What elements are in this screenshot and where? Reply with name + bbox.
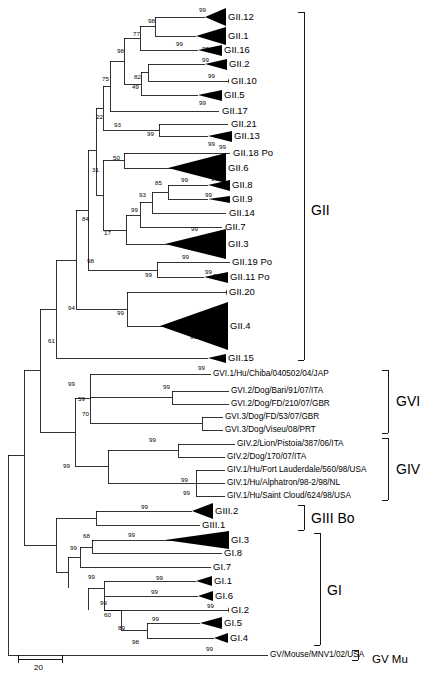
bootstrap-value: 99 (199, 7, 206, 13)
bootstrap-value: 99 (191, 226, 198, 232)
bootstrap-value: 99 (213, 273, 220, 279)
bootstrap-value: 49 (132, 84, 139, 90)
taxon-label-GI.3: GI.3 (231, 535, 249, 545)
scale-bar-label: 20 (34, 664, 43, 672)
taxon-label-GII.9: GII.9 (232, 194, 253, 204)
taxon-label-GII.8: GII.8 (232, 180, 253, 190)
taxon-label-GII.2: GII.2 (229, 59, 250, 69)
taxon-label-GI.7: GI.7 (213, 562, 231, 572)
taxon-label-GV.MNV1: GV/Mouse/MNV1/02/USA (270, 650, 364, 660)
bootstrap-value: 99 (190, 334, 197, 340)
phylogenetic-tree-figure: GII.12GII.1GII.16GII.2GII.10GII.5GII.17G… (0, 0, 433, 688)
bootstrap-value: 99 (145, 272, 152, 278)
bootstrap-value: 99 (208, 141, 215, 147)
taxon-label-GI.4: GI.4 (230, 633, 248, 643)
taxon-label-GII.13: GII.13 (234, 131, 260, 141)
taxon-label-GII.19: GII.19 Po (232, 257, 272, 267)
bootstrap-value: 70 (82, 411, 89, 417)
bootstrap-value: 99 (181, 177, 188, 183)
taxon-label-GII.3: GII.3 (228, 239, 249, 249)
bootstrap-value: 99 (182, 254, 189, 260)
taxon-label-GII.14: GII.14 (229, 208, 255, 218)
group-label-GII: GII (311, 203, 330, 217)
taxon-label-GI.6: GI.6 (215, 591, 233, 601)
taxon-label-GI.8: GI.8 (224, 548, 242, 558)
bootstrap-value: 99 (117, 310, 124, 316)
bootstrap-value: 99 (88, 574, 95, 580)
bootstrap-value: 99 (202, 46, 209, 52)
taxon-label-GII.12: GII.12 (228, 12, 254, 22)
taxon-label-GIV.2.Dog170: GIV.2/Dog/170/07/ITA (227, 452, 306, 462)
bootstrap-value: 99 (207, 603, 214, 609)
bootstrap-value: 31 (92, 167, 99, 173)
bootstrap-value: 98 (87, 258, 94, 264)
taxon-label-GIV.1.Alpha: GIV.1/Hu/Alphatron/98-2/98/NL (227, 478, 340, 488)
bootstrap-value: 82 (134, 74, 141, 80)
taxon-label-GVI.3.FD53: GVI.3/Dog/FD/53/07/GBR (225, 412, 319, 422)
bootstrap-value: 99 (198, 365, 205, 371)
bootstrap-value: 99 (211, 176, 218, 182)
bootstrap-value: 99 (219, 144, 226, 150)
taxon-label-GVI.3.Viseu: GVI.3/Dog/Viseu/08/PRT (225, 425, 316, 435)
taxon-label-GVI.2.FD210: GVI.2/Dog/FD/210/07/GBR (231, 399, 330, 409)
bootstrap-value: 22 (96, 114, 103, 120)
bootstrap-value: 89 (118, 625, 125, 631)
bootstrap-value: 99 (205, 192, 212, 198)
bootstrap-value: 93 (114, 122, 121, 128)
taxon-label-GVI.2.Bari: GVI.2/Dog/Bari/91/07/ITA (231, 386, 323, 396)
bootstrap-value: 68 (83, 533, 90, 539)
bootstrap-value: 98 (132, 639, 139, 645)
bootstrap-value: 75 (102, 76, 109, 82)
bootstrap-value: 17 (104, 230, 111, 236)
bootstrap-value: 99 (218, 252, 225, 258)
taxon-label-GI.1: GI.1 (214, 576, 232, 586)
taxon-label-GII.17: GII.17 (222, 106, 248, 116)
taxon-label-GI.5: GI.5 (224, 618, 242, 628)
bootstrap-value: 99 (183, 490, 190, 496)
bootstrap-value: 99 (163, 384, 170, 390)
bootstrap-value: 99 (202, 57, 209, 63)
group-label-GIIIBo: GIII Bo (311, 511, 355, 525)
bootstrap-value: 99 (131, 207, 138, 213)
taxon-label-GII.10: GII.10 (231, 76, 257, 86)
bootstrap-value: 98 (117, 48, 124, 54)
taxon-label-GIV.2.Lion: GIV.2/Lion/Pistoia/387/06/ITA (237, 439, 344, 449)
group-label-GI: GI (327, 583, 342, 597)
bootstrap-value: 61 (48, 338, 55, 344)
bootstrap-value: 99 (141, 504, 148, 510)
bootstrap-value: 85 (155, 180, 162, 186)
taxon-label-GII.20: GII.20 (229, 287, 255, 297)
taxon-label-GII.1: GII.1 (228, 31, 249, 41)
bootstrap-value: 99 (199, 100, 206, 106)
group-label-GVI: GVI (396, 394, 420, 408)
bootstrap-value: 99 (149, 437, 156, 443)
taxon-label-GIV.1.Fort: GIV.1/Hu/Fort Lauderdale/560/98/USA (227, 465, 366, 475)
bootstrap-value: 99 (205, 269, 212, 275)
bootstrap-value: 99 (152, 616, 159, 622)
bootstrap-value: 99 (156, 575, 163, 581)
taxon-label-GII.5: GII.5 (224, 90, 245, 100)
bootstrap-value: 99 (206, 646, 213, 652)
taxon-label-GII.16: GII.16 (224, 45, 250, 55)
bootstrap-value: 93 (139, 192, 146, 198)
taxon-label-GII.18: GII.18 Po (233, 148, 273, 158)
bootstrap-value: 99 (176, 41, 183, 47)
bootstrap-value: 99 (147, 131, 154, 137)
bootstrap-value: 50 (113, 155, 120, 161)
bootstrap-value: 77 (133, 31, 140, 37)
taxon-label-GIII.2: GIII.2 (215, 506, 238, 516)
bootstrap-value: 59 (78, 396, 85, 402)
bootstrap-value: 98 (148, 18, 155, 24)
bootstrap-value: 99 (70, 545, 77, 551)
taxon-label-GIV.1.Saint: GIV.1/Hu/Saint Cloud/624/98/USA (227, 491, 351, 501)
taxon-label-GII.11: GII.11 Po (230, 272, 269, 282)
bootstrap-value: 60 (104, 612, 111, 618)
bootstrap-value: 84 (82, 216, 89, 222)
taxon-label-GI.2: GI.2 (231, 605, 249, 615)
bootstrap-value: 99 (128, 532, 135, 538)
bootstrap-value: 99 (181, 477, 188, 483)
group-label-GVMu: GV Mu (372, 652, 408, 666)
group-label-GIV: GIV (396, 462, 420, 476)
bootstrap-value: 99 (208, 73, 215, 79)
taxon-label-GII.4: GII.4 (230, 321, 251, 331)
